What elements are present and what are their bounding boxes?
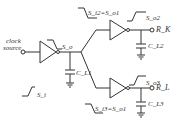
- load-rl-label: R_L: [156, 84, 169, 92]
- top-input-waveform-label: S_i2=S_o1: [88, 10, 119, 17]
- cap-cl3-label: C_L3: [148, 101, 164, 108]
- buffer-1: [40, 41, 56, 63]
- clock-source-terminal: [21, 50, 25, 54]
- load-rk-label: R_K: [156, 26, 170, 34]
- cap-cl2-label: C_L2: [148, 43, 164, 50]
- buffer-top: [110, 20, 126, 40]
- bottom-input-waveform-label: S_i3=S_o1: [95, 106, 126, 113]
- buffer-bottom: [110, 78, 126, 98]
- top-output-waveform-label: S_o2: [146, 15, 160, 22]
- input-waveform-label: S_i: [37, 92, 46, 99]
- source-label: source: [3, 45, 21, 52]
- buffer1-output-label: S_o: [62, 44, 73, 51]
- cap-cl1-label: C_L1: [76, 70, 92, 77]
